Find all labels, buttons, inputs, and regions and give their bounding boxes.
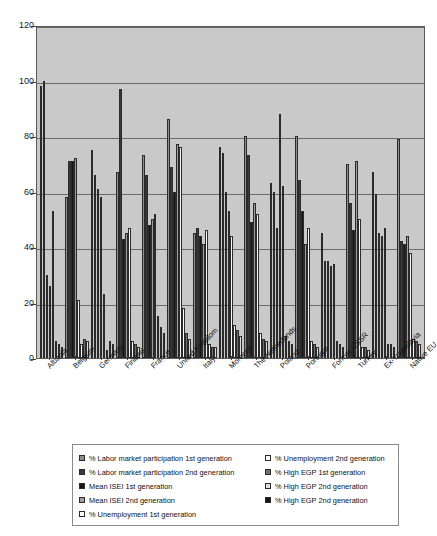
bar-group xyxy=(218,27,244,358)
legend-label: % High EGP 1st generation xyxy=(275,468,365,477)
bar-group xyxy=(141,27,167,358)
legend-swatch-icon xyxy=(265,483,271,489)
y-tick-label-20: 20 xyxy=(4,299,34,308)
legend-column-right: % Unemployment 2nd generation% High EGP … xyxy=(265,451,392,521)
y-tick-label-0: 0 xyxy=(4,354,34,363)
bar-group xyxy=(396,27,422,358)
legend-swatch-icon xyxy=(265,455,271,461)
legend-item: % High EGP 1st generation xyxy=(265,465,392,479)
y-tick-label-100: 100 xyxy=(4,77,34,86)
x-axis-labels: AlbaniaBelgiumGermanyFinlandFranceUnited… xyxy=(36,360,425,440)
legend-item: % Unemployment 2nd generation xyxy=(265,451,392,465)
bar-group xyxy=(167,27,193,358)
y-tick-label-60: 60 xyxy=(4,188,34,197)
legend-column-left: % Labor market participation 1st generat… xyxy=(79,451,265,521)
legend-label: % Labor market participation 1st generat… xyxy=(89,454,232,463)
legend-item: % Labor market participation 2nd generat… xyxy=(79,465,265,479)
bar-group xyxy=(345,27,371,358)
legend-label: % High EGP 2nd generation xyxy=(275,496,368,505)
y-tick-label-80: 80 xyxy=(4,132,34,141)
chart-legend: % Labor market participation 1st generat… xyxy=(72,444,399,526)
bar-group xyxy=(269,27,295,358)
legend-item: Mean ISEI 2nd generation xyxy=(79,493,265,507)
legend-swatch-icon xyxy=(265,497,271,503)
bar-group xyxy=(294,27,320,358)
legend-item: Mean ISEI 1st generation xyxy=(79,479,265,493)
bar-series-container xyxy=(37,27,424,358)
bar-group xyxy=(116,27,142,358)
y-tick-label-40: 40 xyxy=(4,243,34,252)
legend-swatch-icon xyxy=(79,497,85,503)
bar-group xyxy=(39,27,65,358)
bar xyxy=(128,228,131,358)
y-tick-label-120: 120 xyxy=(4,21,34,30)
bar-group xyxy=(243,27,269,358)
bar-group xyxy=(371,27,397,358)
legend-label: Mean ISEI 2nd generation xyxy=(89,496,175,505)
legend-label: Mean ISEI 1st generation xyxy=(89,482,172,491)
legend-label: % Unemployment 2nd generation xyxy=(275,454,385,463)
legend-label: % Labor market participation 2nd generat… xyxy=(89,468,234,477)
bar xyxy=(52,211,55,358)
legend-swatch-icon xyxy=(79,469,85,475)
bar xyxy=(307,228,310,358)
legend-item: % Unemployment 1st generation xyxy=(79,507,265,521)
bar-group xyxy=(90,27,116,358)
bar xyxy=(103,294,106,358)
legend-label: % Unemployment 1st generation xyxy=(89,510,196,519)
y-axis: 020406080100120 xyxy=(0,0,34,360)
legend-item: % Labor market participation 1st generat… xyxy=(79,451,265,465)
legend-swatch-icon xyxy=(79,483,85,489)
bar-group xyxy=(192,27,218,358)
plot-area xyxy=(36,26,425,359)
bar xyxy=(214,347,217,358)
bar-group xyxy=(65,27,91,358)
legend-label: % High EGP 2nd generation xyxy=(275,482,368,491)
bar-group xyxy=(320,27,346,358)
grouped-bar-chart: 020406080100120 AlbaniaBelgiumGermanyFin… xyxy=(0,0,437,440)
legend-item: % High EGP 2nd generation xyxy=(265,479,392,493)
legend-swatch-icon xyxy=(79,511,85,517)
legend-swatch-icon xyxy=(265,469,271,475)
legend-item: % High EGP 2nd generation xyxy=(265,493,392,507)
legend-swatch-icon xyxy=(79,455,85,461)
bar xyxy=(384,228,387,358)
